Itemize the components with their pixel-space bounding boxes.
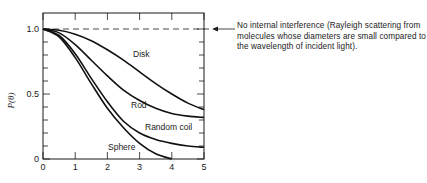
curve-label-rod: Rod [131, 100, 147, 110]
y-axis-label: P(θ) [6, 93, 16, 110]
x-tick-label: 4 [169, 162, 174, 172]
y-tick-label: 1.0 [26, 24, 39, 34]
curves [43, 29, 204, 159]
curve-label-random-coil: Random coil [145, 122, 192, 132]
curve-sphere [43, 29, 172, 159]
curve-rod [43, 29, 204, 117]
plot-frame [43, 13, 235, 159]
x-tick-label: 2 [105, 162, 110, 172]
curve-label-disk: Disk [133, 49, 150, 59]
y-tick-label: 0.5 [26, 89, 39, 99]
x-tick-label: 5 [201, 162, 206, 172]
arrow-head-icon [212, 27, 218, 32]
x-tick-label: 0 [40, 162, 45, 172]
rayleigh-annotation: No internal interference (Rayleigh scatt… [237, 21, 427, 53]
axes-box [43, 13, 204, 159]
x-tick-label: 3 [137, 162, 142, 172]
curve-disk [43, 29, 204, 110]
curve-label-sphere: Sphere [108, 142, 136, 152]
x-tick-label: 1 [73, 162, 78, 172]
y-tick-label: 0 [34, 154, 39, 164]
tick-labels: 01234500.51.0P(θ)DiskRodRandom coilSpher… [6, 24, 207, 172]
